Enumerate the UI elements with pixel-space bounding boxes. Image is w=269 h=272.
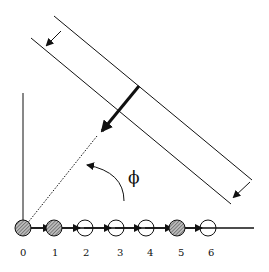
width-arrow-top [47,31,61,45]
lattice-sites [15,220,216,236]
angle-arc [87,165,124,201]
site-label-1: 1 [52,247,58,258]
site-label-6: 6 [208,247,214,258]
direction-dotted-line [26,136,97,225]
site-label-4: 4 [147,247,153,258]
site-label-5: 5 [178,247,184,258]
site-label-0: 0 [20,247,26,258]
diagram-canvas: ϕ 0 1 2 3 4 5 6 [0,0,269,272]
propagation-arrow [102,86,139,131]
site-1 [46,220,62,236]
wavefront-line-upper [54,16,199,136]
site-label-2: 2 [83,247,89,258]
wavefront-line-upper-ext [199,136,252,180]
site-labels: 0 1 2 3 4 5 6 [20,247,214,258]
site-label-3: 3 [117,247,123,258]
site-5 [169,220,185,236]
site-0 [15,220,31,236]
width-arrow-bottom [234,182,250,197]
angle-label-phi: ϕ [128,167,140,187]
